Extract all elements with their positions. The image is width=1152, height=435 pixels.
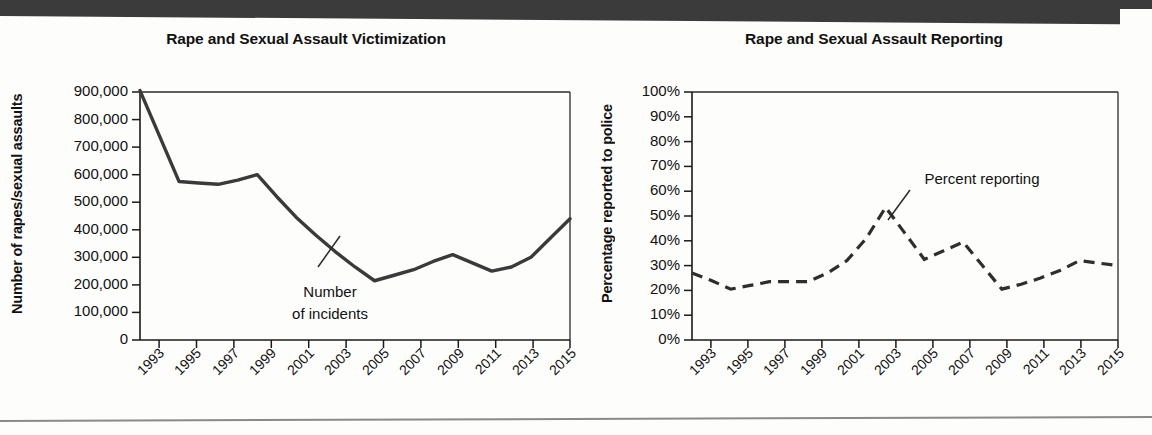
xtick-label: 2003: [321, 345, 354, 378]
xtick-label: 1997: [760, 345, 793, 378]
annotation-line-1: Number: [303, 283, 356, 300]
ytick-label: 80%: [650, 132, 680, 149]
xtick-label: 2005: [359, 345, 392, 378]
ytick-label: 300,000: [74, 247, 128, 264]
ytick-label: 500,000: [74, 192, 128, 209]
y-axis-ticks-reporting: 100% 90% 80% 70% 60% 50% 40% 30% 20% 10%…: [642, 82, 692, 347]
xtick-label: 2001: [284, 345, 317, 378]
xtick-label: 1997: [209, 345, 242, 378]
ytick-label: 20%: [650, 280, 680, 297]
xtick-label: 2011: [472, 345, 505, 378]
ytick-label: 0: [120, 330, 128, 347]
bottom-divider-rule: [0, 416, 1152, 422]
chart-victimization: Rape and Sexual Assault Victimization Nu…: [0, 24, 576, 404]
ytick-label: 800,000: [74, 110, 128, 127]
data-series-line: [140, 91, 570, 281]
xtick-label: 2001: [834, 345, 867, 378]
ytick-label: 0%: [658, 330, 680, 347]
xtick-label: 2007: [945, 345, 978, 378]
ytick-label: 100,000: [74, 302, 128, 319]
xtick-label: 1993: [686, 345, 719, 378]
x-axis-ticks-reporting: 1993 1995 1997 1999 2001 2003 2005 2007 …: [686, 340, 1127, 378]
xtick-label: 1999: [246, 345, 279, 378]
y-axis-ticks-victimization: 900,000 800,000 700,000 600,000 500,000 …: [74, 82, 140, 347]
plot-frame: [140, 92, 570, 340]
ytick-label: 10%: [650, 305, 680, 322]
ytick-label: 200,000: [74, 275, 128, 292]
xtick-label: 1995: [171, 345, 204, 378]
annotation-label: Percent reporting: [924, 170, 1039, 187]
ytick-label: 600,000: [74, 165, 128, 182]
data-series-line: [692, 207, 1118, 289]
plot-frame: [692, 92, 1118, 340]
xtick-label: 2005: [908, 345, 941, 378]
chart-reporting: Rape and Sexual Assault Reporting Percen…: [576, 24, 1152, 404]
ytick-label: 40%: [650, 231, 680, 248]
plot-area-reporting: 100% 90% 80% 70% 60% 50% 40% 30% 20% 10%…: [576, 24, 1152, 404]
plot-area-victimization: 900,000 800,000 700,000 600,000 500,000 …: [0, 24, 576, 404]
ytick-label: 60%: [650, 181, 680, 198]
xtick-label: 2015: [546, 345, 579, 378]
ytick-label: 700,000: [74, 137, 128, 154]
xtick-label: 2007: [396, 345, 429, 378]
ytick-label: 30%: [650, 256, 680, 273]
ytick-label: 100%: [642, 82, 680, 99]
annotation-percent-reporting: Percent reporting: [888, 170, 1040, 220]
ytick-label: 90%: [650, 107, 680, 124]
xtick-label: 1995: [723, 345, 756, 378]
xtick-label: 2013: [509, 345, 542, 378]
ytick-label: 70%: [650, 156, 680, 173]
xtick-label: 2009: [982, 345, 1015, 378]
page-root: Rape and Sexual Assault Victimization Nu…: [0, 0, 1152, 435]
ytick-label: 900,000: [74, 82, 128, 99]
xtick-label: 2003: [871, 345, 904, 378]
xtick-label: 1999: [797, 345, 830, 378]
ytick-label: 50%: [650, 206, 680, 223]
x-axis-ticks-victimization: 1993 1995 1997 1999 2001 2003 2005 2007 …: [134, 340, 579, 378]
xtick-label: 2011: [1020, 345, 1053, 378]
xtick-label: 2015: [1094, 345, 1127, 378]
xtick-label: 2013: [1056, 345, 1089, 378]
xtick-label: 1993: [134, 345, 167, 378]
ytick-label: 400,000: [74, 220, 128, 237]
annotation-line-2: of incidents: [292, 305, 368, 322]
xtick-label: 2009: [434, 345, 467, 378]
annotation-number-of-incidents: Number of incidents: [292, 236, 368, 322]
